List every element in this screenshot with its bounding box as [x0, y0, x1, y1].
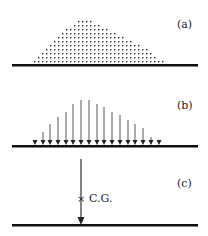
- particle-dot: [130, 53, 131, 54]
- particle-dot: [70, 33, 71, 34]
- arrow-head-icon: [95, 140, 100, 145]
- particle-dot: [90, 21, 91, 22]
- particle-dot: [118, 41, 119, 42]
- particle-dot: [154, 61, 155, 62]
- particle-dot: [90, 57, 91, 58]
- particle-dot: [90, 29, 91, 30]
- particle-dot: [86, 57, 87, 58]
- particle-dot: [78, 61, 79, 62]
- panel-label-b: (b): [177, 99, 193, 112]
- particle-dot: [110, 45, 111, 46]
- particle-dot: [98, 37, 99, 38]
- particle-dot: [78, 41, 79, 42]
- particle-dot: [78, 57, 79, 58]
- particle-dot: [86, 25, 87, 26]
- particle-dot: [46, 49, 47, 50]
- particle-dot: [74, 37, 75, 38]
- resultant-arrow-head-icon: [78, 217, 85, 225]
- particle-dot: [102, 45, 103, 46]
- particle-dot: [74, 57, 75, 58]
- particle-dot: [86, 37, 87, 38]
- particle-dot: [114, 53, 115, 54]
- particle-dot: [114, 37, 115, 38]
- particle-dot: [146, 61, 147, 62]
- particle-dot: [86, 49, 87, 50]
- particle-dot: [58, 53, 59, 54]
- particle-dot: [58, 37, 59, 38]
- particle-dot: [90, 49, 91, 50]
- particle-dot: [94, 33, 95, 34]
- particle-dot: [42, 53, 43, 54]
- arrow-head-icon: [48, 140, 53, 145]
- particle-dot: [78, 37, 79, 38]
- particle-dot: [150, 61, 151, 62]
- particle-dot: [122, 61, 123, 62]
- particle-dot: [122, 49, 123, 50]
- particle-dot: [46, 61, 47, 62]
- particle-dot: [90, 37, 91, 38]
- particle-dot: [102, 33, 103, 34]
- particle-dot: [98, 57, 99, 58]
- particle-dot: [102, 29, 103, 30]
- particle-dot: [54, 61, 55, 62]
- particle-dot: [46, 53, 47, 54]
- particle-dot: [82, 29, 83, 30]
- particle-dot: [58, 41, 59, 42]
- particle-dot: [114, 57, 115, 58]
- particle-dot: [134, 61, 135, 62]
- particle-dot: [74, 49, 75, 50]
- particle-dot: [102, 61, 103, 62]
- particle-dot: [54, 41, 55, 42]
- particle-dot: [122, 57, 123, 58]
- particle-dot: [102, 53, 103, 54]
- particle-dot: [110, 33, 111, 34]
- panel-b: (b): [12, 99, 198, 148]
- arrow-head-icon: [79, 140, 84, 145]
- particle-dot: [50, 61, 51, 62]
- cg-label: C.G.: [89, 192, 112, 205]
- particle-dot: [150, 53, 151, 54]
- particle-dot: [66, 29, 67, 30]
- particle-dot: [118, 61, 119, 62]
- particle-dot: [98, 41, 99, 42]
- particle-dot: [90, 33, 91, 34]
- particle-dot: [134, 57, 135, 58]
- particle-dot: [70, 61, 71, 62]
- panel-a: (a): [12, 18, 198, 67]
- particle-dot: [150, 57, 151, 58]
- particle-dot: [126, 53, 127, 54]
- particle-dot: [142, 61, 143, 62]
- particle-dot: [46, 57, 47, 58]
- particle-dot: [122, 45, 123, 46]
- particle-dot: [86, 45, 87, 46]
- load-arrows: [33, 100, 162, 145]
- particle-dots: [34, 21, 163, 62]
- particle-dot: [82, 45, 83, 46]
- particle-dot: [70, 37, 71, 38]
- particle-dot: [54, 49, 55, 50]
- particle-dot: [130, 45, 131, 46]
- particle-dot: [62, 61, 63, 62]
- particle-dot: [70, 53, 71, 54]
- particle-dot: [114, 41, 115, 42]
- particle-dot: [78, 33, 79, 34]
- panel-label-c: (c): [177, 177, 192, 190]
- particle-dot: [106, 45, 107, 46]
- particle-dot: [42, 57, 43, 58]
- particle-dot: [126, 49, 127, 50]
- particle-dot: [82, 21, 83, 22]
- particle-dot: [146, 57, 147, 58]
- particle-dot: [82, 41, 83, 42]
- particle-dot: [62, 41, 63, 42]
- particle-dot: [86, 29, 87, 30]
- particle-dot: [138, 57, 139, 58]
- force-distribution-diagram: (a) (b) × C.G. (c): [0, 0, 208, 236]
- particle-dot: [106, 53, 107, 54]
- particle-dot: [134, 45, 135, 46]
- particle-dot: [106, 57, 107, 58]
- particle-dot: [126, 45, 127, 46]
- particle-dot: [66, 33, 67, 34]
- particle-dot: [138, 49, 139, 50]
- particle-dot: [62, 33, 63, 34]
- particle-dot: [110, 53, 111, 54]
